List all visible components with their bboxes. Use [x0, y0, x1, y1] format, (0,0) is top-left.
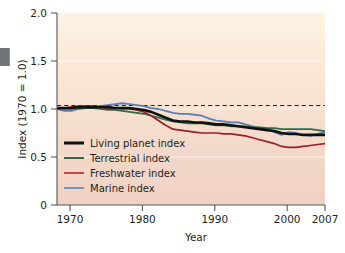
y-tick-label-2.0: 2.0: [30, 7, 47, 19]
legend-label-marine: Marine index: [90, 183, 155, 194]
y-axis-title: Index (1970 = 1.0): [16, 59, 28, 158]
x-axis: [57, 205, 325, 211]
legend-label-living-planet: Living planet index: [90, 138, 185, 149]
y-tick-label-1.5: 1.5: [30, 55, 47, 67]
y-tick-label-0.5: 0.5: [30, 151, 47, 163]
x-tick-label-2000: 2000: [274, 213, 301, 225]
y-tick-label-1.0: 1.0: [30, 103, 47, 115]
line-chart: 2.0 1.5 1.0 0.5 0 1970 1980 1990 2000 20…: [0, 0, 345, 253]
legend-label-freshwater: Freshwater index: [90, 168, 176, 179]
x-tick-label-2007: 2007: [312, 213, 339, 225]
x-tick-label-1970: 1970: [57, 213, 84, 225]
x-tick-label-1990: 1990: [201, 213, 228, 225]
legend-label-terrestrial: Terrestrial index: [89, 153, 170, 164]
figure-canvas: 2.0 1.5 1.0 0.5 0 1970 1980 1990 2000 20…: [0, 0, 345, 253]
y-tick-label-0: 0: [40, 199, 47, 211]
x-axis-title: Year: [184, 231, 208, 243]
y-axis: [51, 13, 57, 205]
x-tick-label-1980: 1980: [129, 213, 156, 225]
